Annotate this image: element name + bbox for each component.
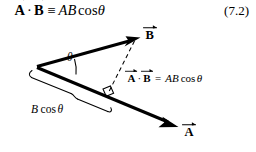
cosine-function: cos — [179, 72, 196, 84]
inline-result-label: A·B=ABcosθ — [127, 73, 202, 84]
vector-a-label: A — [184, 126, 194, 139]
vector-a-letter: A — [185, 125, 194, 139]
projection-magnitude-b: B — [31, 103, 38, 115]
magnitude-b: B — [172, 72, 179, 84]
dot-operator: · — [136, 72, 143, 84]
angle-label: θ — [67, 52, 73, 64]
vector-b-letter: B — [146, 28, 154, 42]
vector-b-arrow — [37, 36, 141, 66]
vector-a-symbol: A — [184, 126, 194, 139]
vector-b-label: B — [145, 29, 154, 42]
magnitude-a: A — [165, 72, 172, 84]
projection-cosine: cos — [38, 103, 56, 115]
vector-b-symbol: B — [143, 73, 151, 84]
projection-dashed-line — [109, 41, 135, 93]
vector-a-symbol: A — [127, 73, 136, 84]
dot-product-figure: A·B≡ABcosθ (7.2) — [0, 0, 256, 152]
vector-b-letter: B — [143, 72, 150, 84]
vector-b-symbol: B — [145, 29, 154, 42]
equals-sign: = — [151, 72, 165, 84]
angle-theta: θ — [195, 72, 202, 84]
projection-angle: θ — [56, 103, 63, 115]
vector-a-letter: A — [128, 72, 136, 84]
projection-length-label: Bcosθ — [31, 104, 63, 116]
angle-arc — [75, 59, 77, 75]
